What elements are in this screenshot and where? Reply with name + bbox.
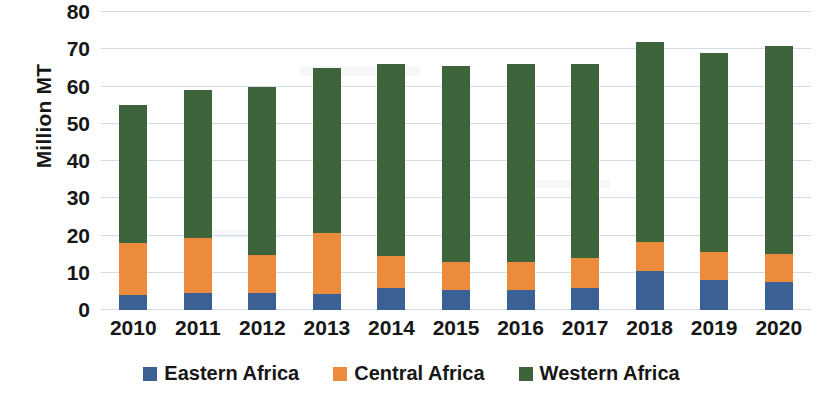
bar-group-2018[interactable] [617,12,682,310]
y-tick-label-20: 20 [67,224,90,248]
legend-item-eastern-africa[interactable]: Eastern Africa [143,362,299,385]
stacked-bar[interactable] [184,90,212,310]
y-tick-label-80: 80 [67,0,90,24]
x-tick-label-2016: 2016 [488,316,553,350]
bar-segment[interactable] [636,42,664,242]
y-axis-tick-labels: 01020304050607080 [32,0,90,322]
y-tick-label-30: 30 [67,186,90,210]
plot-area [101,12,811,310]
bar-group-2013[interactable] [295,12,360,310]
stacked-bar[interactable] [507,64,535,310]
bar-group-2012[interactable] [230,12,295,310]
bar-segment[interactable] [765,282,793,310]
bar-segment[interactable] [377,64,405,256]
bar-segment[interactable] [765,46,793,255]
legend-label: Central Africa [354,362,484,385]
bar-segment[interactable] [313,68,341,233]
bar-segment[interactable] [636,271,664,310]
x-tick-label-2019: 2019 [682,316,747,350]
x-tick-label-2014: 2014 [359,316,424,350]
bar-segment[interactable] [119,295,147,310]
y-tick-label-50: 50 [67,112,90,136]
bar-segment[interactable] [377,256,405,288]
bar-segment[interactable] [636,242,664,271]
bar-segment[interactable] [507,290,535,310]
chart-legend: Eastern AfricaCentral AfricaWestern Afri… [0,362,823,385]
stacked-bar[interactable] [571,64,599,310]
bar-segment[interactable] [248,255,276,293]
x-tick-label-2015: 2015 [424,316,489,350]
bar-segment[interactable] [700,280,728,310]
bar-segment[interactable] [571,258,599,288]
bar-segment[interactable] [700,53,728,252]
x-tick-label-2013: 2013 [295,316,360,350]
stacked-bar[interactable] [377,64,405,310]
legend-swatch-icon [519,367,533,381]
stacked-bar[interactable] [765,46,793,310]
bar-group-2016[interactable] [488,12,553,310]
y-tick-label-0: 0 [78,298,90,322]
bar-segment[interactable] [700,252,728,280]
bar-segment[interactable] [313,294,341,310]
x-tick-label-2017: 2017 [553,316,618,350]
stacked-bar[interactable] [313,68,341,310]
bar-segment[interactable] [765,254,793,282]
bar-group-2010[interactable] [101,12,166,310]
bar-series-container [101,12,811,310]
bar-segment[interactable] [119,105,147,243]
legend-swatch-icon [333,367,347,381]
bar-group-2017[interactable] [553,12,618,310]
stacked-bar[interactable] [442,66,470,310]
y-tick-label-60: 60 [67,75,90,99]
bar-segment[interactable] [248,293,276,310]
x-tick-label-2020: 2020 [746,316,811,350]
x-tick-label-2011: 2011 [166,316,231,350]
y-tick-label-10: 10 [67,261,90,285]
legend-label: Eastern Africa [164,362,299,385]
bar-segment[interactable] [184,293,212,310]
stacked-bar[interactable] [700,53,728,310]
x-axis-tick-labels: 2010201120122013201420152016201720182019… [101,316,811,350]
bar-segment[interactable] [248,87,276,255]
bar-segment[interactable] [507,64,535,261]
bar-segment[interactable] [507,262,535,290]
y-tick-label-70: 70 [67,37,90,61]
bar-group-2015[interactable] [424,12,489,310]
bar-segment[interactable] [184,90,212,238]
bar-segment[interactable] [377,288,405,310]
y-tick-label-40: 40 [67,149,90,173]
bar-segment[interactable] [313,233,341,294]
bar-segment[interactable] [184,238,212,294]
bar-segment[interactable] [119,243,147,295]
legend-item-western-africa[interactable]: Western Africa [519,362,680,385]
x-tick-label-2018: 2018 [617,316,682,350]
legend-item-central-africa[interactable]: Central Africa [333,362,484,385]
bar-segment[interactable] [442,290,470,310]
bar-segment[interactable] [442,66,470,262]
bar-group-2020[interactable] [746,12,811,310]
bar-segment[interactable] [571,64,599,258]
bar-group-2014[interactable] [359,12,424,310]
legend-label: Western Africa [540,362,680,385]
bar-segment[interactable] [571,288,599,310]
bar-segment[interactable] [442,262,470,290]
x-tick-label-2012: 2012 [230,316,295,350]
stacked-bar[interactable] [248,87,276,310]
bar-group-2019[interactable] [682,12,747,310]
stacked-bar[interactable] [636,42,664,310]
bar-group-2011[interactable] [166,12,231,310]
legend-swatch-icon [143,367,157,381]
x-tick-label-2010: 2010 [101,316,166,350]
stacked-bar[interactable] [119,105,147,310]
stacked-bar-chart: Million MT 01020304050607080 20102011201… [0,0,823,396]
